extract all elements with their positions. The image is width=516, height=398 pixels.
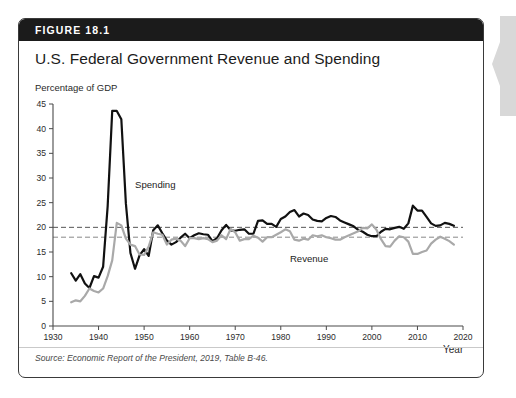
x-tick-label: 2000 [362, 332, 381, 342]
x-tick-label: 2010 [408, 332, 427, 342]
series-group [71, 111, 454, 302]
y-tick-label: 40 [36, 124, 46, 134]
source-note: Source: Economic Report of the President… [35, 353, 268, 363]
page-edge-artifact [490, 16, 516, 116]
figure-card: FIGURE 18.1 U.S. Federal Government Reve… [18, 18, 484, 378]
y-tick-label: 45 [36, 99, 46, 109]
x-tick-label: 2020 [453, 332, 472, 342]
y-tick-label: 0 [41, 321, 46, 331]
y-axis-tick-group: 051015202530354045 [36, 99, 53, 331]
y-tick-label: 30 [36, 173, 46, 183]
x-tick-label: 1950 [135, 332, 154, 342]
source-divider [19, 347, 484, 348]
x-tick-label: 1980 [271, 332, 290, 342]
x-axis-title: Year [443, 344, 463, 355]
series-line-spending [71, 111, 454, 288]
series-annotation-group: SpendingRevenue [135, 179, 328, 264]
x-tick-label: 1990 [317, 332, 336, 342]
y-tick-label: 20 [36, 222, 46, 232]
x-tick-label: 1940 [89, 332, 108, 342]
y-tick-label: 10 [36, 272, 46, 282]
annotation-revenue: Revenue [290, 253, 328, 264]
y-tick-label: 25 [36, 198, 46, 208]
x-tick-label: 1970 [226, 332, 245, 342]
x-tick-label: 1930 [43, 332, 62, 342]
chart-plot: 051015202530354045 193019401950196019701… [19, 19, 484, 378]
y-tick-label: 35 [36, 148, 46, 158]
annotation-spending: Spending [135, 179, 176, 190]
x-axis-tick-group: 1930194019501960197019801990200020102020 [43, 326, 472, 342]
y-tick-label: 5 [41, 296, 46, 306]
y-tick-label: 15 [36, 247, 46, 257]
x-tick-label: 1960 [180, 332, 199, 342]
